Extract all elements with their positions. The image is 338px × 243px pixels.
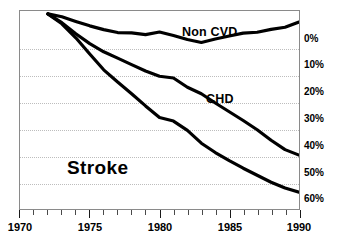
series-label-non-cvd: Non CVD [182, 25, 238, 39]
x-tick-minor-1986 [244, 210, 245, 215]
x-tick-label-1990: 1990 [287, 221, 311, 233]
y-tick-label-30: 30% [304, 113, 324, 124]
x-tick-label-1980: 1980 [148, 221, 172, 233]
y-tick-label-10: 10% [304, 59, 324, 70]
series-label-stroke: Stroke [67, 157, 129, 179]
x-tick-major-1985 [230, 210, 231, 218]
chart-figure: Non CVD CHD Stroke 0% 10% 20% 30% 40% 50… [0, 0, 338, 243]
x-tick-minor-1974 [75, 210, 76, 215]
x-tick-minor-1977 [117, 210, 118, 215]
series-line-non-cvd [48, 14, 299, 43]
y-tick-label-60: 60% [304, 193, 324, 204]
x-tick-minor-1987 [258, 210, 259, 215]
y-tick-label-40: 40% [304, 140, 324, 151]
x-tick-label-1985: 1985 [218, 221, 242, 233]
x-tick-major-1980 [160, 210, 161, 218]
x-tick-minor-1972 [47, 210, 48, 215]
series-label-chd: CHD [206, 92, 234, 106]
x-tick-minor-1984 [216, 210, 217, 215]
x-tick-minor-1973 [61, 210, 62, 215]
y-tick-label-20: 20% [304, 86, 324, 97]
x-axis-ticks [19, 210, 300, 218]
x-tick-minor-1989 [286, 210, 287, 215]
x-tick-minor-1976 [103, 210, 104, 215]
x-tick-label-1970: 1970 [8, 221, 32, 233]
series-svg [20, 11, 299, 209]
y-tick-label-0: 0% [304, 33, 318, 44]
x-tick-minor-1971 [33, 210, 34, 215]
x-tick-major-1990 [300, 210, 301, 218]
x-tick-minor-1981 [174, 210, 175, 215]
x-tick-minor-1988 [272, 210, 273, 215]
x-tick-minor-1978 [131, 210, 132, 215]
x-tick-label-1975: 1975 [78, 221, 102, 233]
x-tick-major-1975 [89, 210, 90, 218]
x-tick-minor-1983 [202, 210, 203, 215]
x-tick-major-1970 [19, 210, 20, 218]
plot-area: Non CVD CHD Stroke [19, 10, 300, 210]
x-tick-minor-1979 [145, 210, 146, 215]
x-tick-minor-1982 [188, 210, 189, 215]
y-tick-label-50: 50% [304, 167, 324, 178]
